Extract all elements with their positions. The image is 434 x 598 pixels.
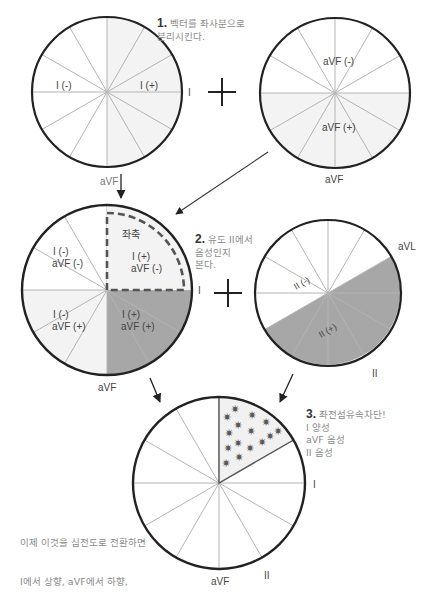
q-lower-left-line2: aVF (+) [52,321,86,332]
label-i-neg: I (-) [56,80,72,91]
axis-label-ii: II [264,570,270,581]
svg-text:✷: ✷ [230,403,239,416]
step-3-note: 3.좌전섬유속차단! I 양성 aVF 음성 II 음성 [306,408,386,459]
summary-line: I에서 상향, aVF에서 하향, [20,575,146,588]
q-upper-right-line1: I (+) [132,251,150,262]
diagram-canvas: ✷ ✷ ✷ ✷ ✷ ✷ ✷ ✷ ✷ ✷ ✷ ✷ ✷ ✷ ✷ I (-) I (+… [0,0,434,598]
svg-text:✷: ✷ [222,411,231,424]
svg-text:✷: ✷ [273,425,282,438]
axis-label-avf: aVF [325,174,343,185]
arrow-diagonal-icon [176,152,268,214]
summary-text: 이제 이것을 심전도로 전환하면 I에서 상향, aVF에서 하향, 그리고 좌… [20,510,146,598]
axis-label-avf: aVF [211,576,229,587]
q-lower-right-line1: I (+) [122,309,140,320]
label-ii-neg: II (-) [292,275,311,292]
q-lower-right-line2: aVF (+) [121,321,155,332]
axis-label-avl: aVL [398,241,416,252]
circle-lead-avf [255,18,415,173]
arrow-down-icon [280,374,293,402]
svg-text:✷: ✷ [221,457,230,470]
step-number: 1. [157,16,167,30]
axis-label-i: I [313,479,316,490]
label-avf-pos: aVF (+) [322,122,356,133]
q-upper-left-line1: I (-) [53,246,69,257]
positive-half-shading [265,257,400,365]
label-left-axis: 좌축 [122,229,140,240]
q-upper-right-line2: aVF (-) [131,263,162,274]
step-1-note: 1.벡터를 좌사분으로 분리시킨다. [157,17,245,43]
svg-text:✷: ✷ [223,442,232,455]
step-1-text: 벡터를 좌사분으로 분리시킨다. [157,18,245,42]
step-3-text: 좌전섬유속차단! I 양성 aVF 음성 II 음성 [306,409,386,458]
svg-text:✷: ✷ [247,409,256,422]
step-number: 2. [195,232,205,246]
summary-line: 이제 이것을 심전도로 전환하면 [20,536,146,549]
svg-text:✷: ✷ [233,419,242,432]
svg-text:✷: ✷ [257,436,266,449]
plus-icon [214,279,242,307]
axis-label-avf: aVF [98,382,116,393]
label-avf-neg: aVF (-) [323,56,354,67]
svg-text:✷: ✷ [234,451,243,464]
svg-text:✷: ✷ [265,430,274,443]
q-upper-left-line2: aVF (-) [52,258,83,269]
svg-text:✷: ✷ [224,427,233,440]
svg-text:✷: ✷ [261,416,270,429]
axis-label-i: I [198,285,201,296]
axis-label-ii: II [372,368,378,379]
svg-text:✷: ✷ [245,442,254,455]
svg-text:✷: ✷ [233,437,242,450]
circle-quadrants [22,205,192,375]
axis-label-i: I [188,87,191,98]
circle-lead-ii [255,220,401,366]
q-lower-left-line1: I (-) [53,309,69,320]
plus-icon [208,78,236,106]
label-i-pos: I (+) [140,80,158,91]
arrow-down-icon [150,378,160,402]
step-2-note: 2.유도 II에서 음성인지 본다. [195,233,253,272]
circle-result: ✷ ✷ ✷ ✷ ✷ ✷ ✷ ✷ ✷ ✷ ✷ ✷ ✷ ✷ ✷ [133,397,305,569]
axis-label-avf: aVF [100,176,118,187]
step-number: 3. [306,407,316,421]
svg-text:✷: ✷ [246,425,255,438]
